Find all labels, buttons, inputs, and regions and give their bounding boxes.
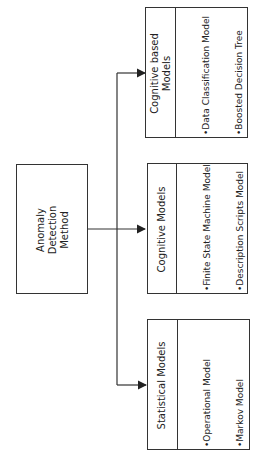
category-items: •Data Classification Model •Boosted Deci… <box>179 11 267 135</box>
category-title-line: Cognitive Models <box>156 168 168 291</box>
divider <box>177 320 178 449</box>
cognitive-based-models-box: Cognitive based Models •Data Classificat… <box>145 7 248 138</box>
category-items: •Finite State Machine Model •Description… <box>180 167 267 291</box>
category-title-line: Statistical Models <box>156 324 168 447</box>
list-item: •Description Scripts Model <box>235 167 246 291</box>
root-title: Anomaly Detection Method <box>35 183 71 277</box>
category-title: Statistical Models <box>156 324 168 447</box>
root-title-line: Anomaly <box>35 183 47 277</box>
category-title: Cognitive based Models <box>149 12 173 135</box>
root-title-line: Detection <box>47 183 59 277</box>
category-title-line: Cognitive based <box>149 12 161 135</box>
list-item: •Markov Model <box>235 323 246 447</box>
divider <box>175 8 176 137</box>
category-items: •Operational Model •Markov Model •Statis… <box>180 323 267 447</box>
category-title-line: Models <box>161 12 173 135</box>
list-item: •Operational Model <box>202 323 213 447</box>
root-title-line: Method <box>59 183 71 277</box>
list-item: •Finite State Machine Model <box>202 167 213 291</box>
list-item: •Data Classification Model <box>201 11 212 135</box>
cognitive-models-box: Cognitive Models •Finite State Machine M… <box>147 163 248 294</box>
statistical-models-box: Statistical Models •Operational Model •M… <box>147 319 250 450</box>
list-item: •Boosted Decision Tree <box>234 11 245 135</box>
divider <box>176 164 177 293</box>
anomaly-detection-method-box: Anomaly Detection Method <box>16 164 88 294</box>
category-title: Cognitive Models <box>156 168 168 291</box>
